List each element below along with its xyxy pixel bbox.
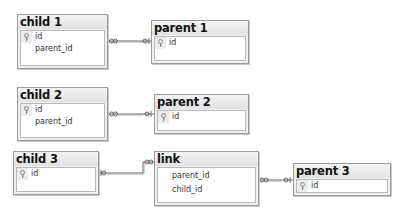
table-link[interactable]: link parent_id child_id xyxy=(154,151,259,206)
key-icon xyxy=(19,170,26,178)
table-columns: id xyxy=(154,36,246,61)
relationship-child2-parent2[interactable] xyxy=(107,111,154,117)
key-icon xyxy=(23,106,30,114)
column-row[interactable]: id xyxy=(21,31,104,43)
column-row[interactable]: id xyxy=(155,37,245,49)
table-columns: parent_id child_id xyxy=(157,167,256,203)
table-child-1[interactable]: child 1 id parent_id xyxy=(17,14,108,69)
table-title: parent 2 xyxy=(155,95,248,109)
table-title: parent 1 xyxy=(152,21,248,35)
table-columns: id parent_id xyxy=(20,103,105,138)
key-icon xyxy=(299,182,306,190)
table-child-3[interactable]: child 3 id xyxy=(13,151,99,195)
table-parent-3[interactable]: parent 3 id xyxy=(293,163,391,196)
key-icon xyxy=(23,33,30,41)
table-title: child 2 xyxy=(18,88,107,102)
column-row[interactable]: child_id xyxy=(158,184,255,196)
key-icon xyxy=(160,113,167,121)
table-parent-2[interactable]: parent 2 id xyxy=(154,94,249,134)
column-row[interactable]: id xyxy=(17,168,95,180)
table-columns: id xyxy=(157,110,246,131)
column-row[interactable]: id xyxy=(297,180,387,192)
relationship-child1-parent1[interactable] xyxy=(107,38,151,44)
table-title: child 1 xyxy=(18,15,107,29)
table-columns: id parent_id xyxy=(20,30,105,66)
column-row[interactable]: parent_id xyxy=(21,43,104,55)
column-row[interactable]: parent_id xyxy=(158,170,255,182)
table-title: parent 3 xyxy=(294,164,390,178)
column-row[interactable]: id xyxy=(158,111,245,123)
relationship-link-child3[interactable] xyxy=(98,160,154,176)
table-child-2[interactable]: child 2 id parent_id xyxy=(17,87,108,141)
key-icon xyxy=(157,39,164,47)
table-title: link xyxy=(155,152,258,166)
column-row[interactable]: id xyxy=(21,104,104,116)
relationship-link-parent3[interactable] xyxy=(258,177,293,183)
table-parent-1[interactable]: parent 1 id xyxy=(151,20,249,64)
table-title: child 3 xyxy=(14,152,98,166)
column-row[interactable]: parent_id xyxy=(21,116,104,128)
table-columns: id xyxy=(296,179,388,193)
table-columns: id xyxy=(16,167,96,192)
